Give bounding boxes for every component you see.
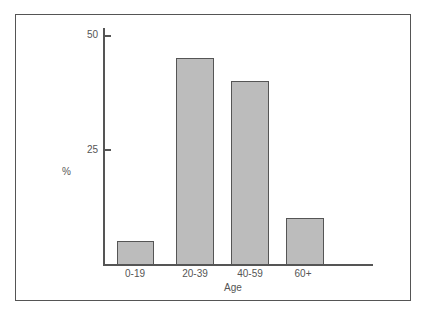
- y-tick-label-50: 50: [68, 29, 98, 40]
- bar-40-59: [231, 81, 269, 265]
- x-tick-label-20-39: 20-39: [175, 268, 215, 279]
- y-axis-label: %: [62, 166, 71, 177]
- bar-20-39: [176, 58, 214, 265]
- y-tick-25: [104, 149, 111, 151]
- y-tick-50: [104, 35, 111, 37]
- y-tick-label-25: 25: [68, 144, 98, 155]
- x-tick-label-40-59: 40-59: [230, 268, 270, 279]
- x-tick-label-0-19: 0-19: [115, 268, 155, 279]
- y-axis: [103, 28, 105, 265]
- bar-0-19: [117, 241, 154, 265]
- bar-60-plus: [286, 218, 324, 265]
- x-axis-title: Age: [218, 282, 248, 293]
- x-tick-label-60-plus: 60+: [283, 268, 323, 279]
